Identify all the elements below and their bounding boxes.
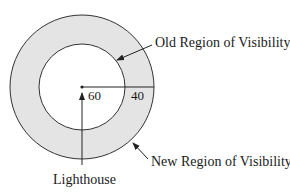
old-region-label: Old Region of Visibility [155, 35, 290, 50]
ring-width-label: 40 [131, 88, 144, 103]
inner-radius-label: 60 [88, 88, 101, 103]
lighthouse-visibility-diagram: 60 40 Lighthouse Old Region of Visibilit… [0, 0, 290, 196]
new-region-label: New Region of Visibility [151, 154, 290, 169]
lighthouse-label: Lighthouse [53, 172, 116, 187]
lighthouse-point [80, 85, 83, 88]
new-region-arrow [133, 143, 148, 159]
